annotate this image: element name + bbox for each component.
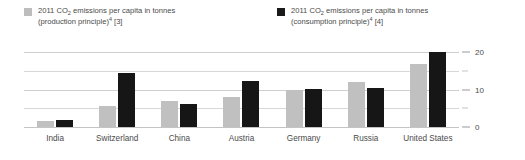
legend-consumption-principle-text: (consumption principle): [291, 17, 370, 26]
legend-consumption-text-post: emissions per capita in tonnes: [324, 6, 428, 15]
legend-production-text-post: emissions per capita in tonnes: [71, 6, 175, 15]
legend-production-superscript: 4: [109, 16, 112, 22]
legend-consumption-subscript: 2: [321, 10, 324, 16]
legend-swatch-consumption-icon: [277, 8, 285, 16]
y-tick-dash-5: [462, 108, 468, 109]
legend-label-consumption-line1: 2011 CO2 emissions per capita in tonnes: [291, 6, 428, 17]
legend-production-principle-text: (production principle): [38, 17, 109, 26]
legend-label-consumption-line2: (consumption principle)4 [4]: [291, 17, 428, 28]
chart-legend: 2011 CO2 emissions per capita in tonnes …: [0, 6, 525, 40]
bar-austria-consumption[interactable]: [242, 81, 259, 127]
y-tick-label-0: 0: [475, 123, 479, 132]
legend-production-subscript: 2: [68, 10, 71, 16]
y-tick-5: [462, 108, 468, 109]
bar-group-united-states: [397, 45, 459, 127]
legend-swatch-production-icon: [24, 8, 32, 16]
y-tick-dash-10: [462, 89, 470, 90]
bar-group-russia: [335, 45, 397, 127]
y-tick-20: 20: [462, 48, 484, 57]
y-tick-dash-20: [462, 52, 470, 53]
bar-austria-production[interactable]: [223, 97, 240, 127]
bar-india-production[interactable]: [37, 121, 54, 127]
bar-groups: [24, 45, 459, 127]
y-axis: 20100: [462, 45, 522, 131]
bar-germany-consumption[interactable]: [305, 89, 322, 127]
plot-area: [24, 45, 459, 131]
bar-germany-production[interactable]: [286, 90, 303, 127]
legend-consumption-superscript: 4: [370, 16, 373, 22]
x-axis: IndiaSwitzerlandChinaAustriaGermanyRussi…: [24, 134, 459, 143]
bar-china-consumption[interactable]: [180, 104, 197, 127]
bar-russia-production[interactable]: [348, 82, 365, 127]
legend-production-reference: [3]: [112, 17, 123, 26]
bar-united-states-consumption[interactable]: [429, 52, 446, 127]
x-tick-label-switzerland: Switzerland: [86, 134, 148, 143]
x-tick-label-austria: Austria: [210, 134, 272, 143]
legend-entry-production: 2011 CO2 emissions per capita in tonnes …: [24, 6, 175, 27]
bar-switzerland-consumption[interactable]: [118, 73, 135, 127]
bar-india-consumption[interactable]: [56, 120, 73, 127]
bar-group-switzerland: [86, 45, 148, 127]
y-tick-label-10: 10: [475, 85, 484, 94]
bar-united-states-production[interactable]: [410, 64, 427, 127]
y-tick-dash-0: [462, 127, 470, 128]
legend-label-production: 2011 CO2 emissions per capita in tonnes …: [38, 6, 175, 27]
y-tick-dash-15: [462, 71, 468, 72]
legend-label-consumption: 2011 CO2 emissions per capita in tonnes …: [291, 6, 428, 27]
x-tick-label-germany: Germany: [273, 134, 335, 143]
y-tick-0: 0: [462, 123, 479, 132]
bar-group-india: [24, 45, 86, 127]
legend-entry-consumption: 2011 CO2 emissions per capita in tonnes …: [277, 6, 428, 27]
bar-china-production[interactable]: [161, 101, 178, 127]
x-tick-label-india: India: [24, 134, 86, 143]
bar-group-austria: [210, 45, 272, 127]
bar-russia-consumption[interactable]: [367, 88, 384, 127]
co2-emissions-bar-chart: 2011 CO2 emissions per capita in tonnes …: [0, 0, 525, 160]
x-tick-label-united-states: United States: [397, 134, 459, 143]
legend-consumption-text-pre: 2011 CO: [291, 6, 321, 15]
bar-switzerland-production[interactable]: [99, 106, 116, 127]
y-tick-10: 10: [462, 85, 484, 94]
gridline-0: [24, 127, 459, 128]
legend-production-text-pre: 2011 CO: [38, 6, 68, 15]
legend-label-production-line2: (production principle)4 [3]: [38, 17, 175, 28]
legend-consumption-reference: [4]: [373, 17, 384, 26]
y-tick-15: [462, 71, 468, 72]
y-tick-label-20: 20: [475, 48, 484, 57]
bar-group-china: [148, 45, 210, 127]
x-tick-label-china: China: [148, 134, 210, 143]
x-tick-label-russia: Russia: [335, 134, 397, 143]
bar-group-germany: [273, 45, 335, 127]
legend-label-production-line1: 2011 CO2 emissions per capita in tonnes: [38, 6, 175, 17]
